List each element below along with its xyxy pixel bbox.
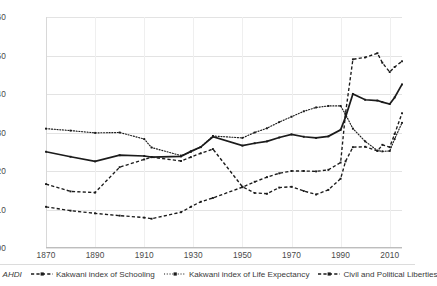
data-point-marker: [364, 99, 366, 101]
data-point-marker: [345, 160, 347, 162]
legend-swatch-icon: [31, 270, 53, 278]
data-point-marker: [303, 136, 305, 138]
data-point-marker: [291, 133, 293, 135]
data-point-marker: [241, 145, 243, 147]
data-point-marker: [151, 218, 153, 220]
data-point-marker: [303, 170, 305, 172]
data-point-marker: [352, 128, 354, 130]
x-axis-tick-label: 2010: [370, 250, 410, 260]
legend-label: Civil and Political Liberties: [343, 270, 437, 279]
data-point-marker: [381, 62, 383, 64]
y-axis-tick-label: 0.40: [0, 89, 6, 99]
data-point-marker: [394, 66, 396, 68]
data-point-marker: [254, 192, 256, 194]
data-point-marker: [401, 60, 403, 62]
x-axis-tick-label: 1990: [321, 250, 361, 260]
data-point-marker: [377, 150, 379, 152]
data-point-marker: [119, 166, 121, 168]
data-point-marker: [266, 127, 268, 129]
data-point-marker: [70, 156, 72, 158]
y-axis-tick-label: 0.20: [0, 166, 6, 176]
data-point-marker: [266, 176, 268, 178]
data-point-marker: [291, 170, 293, 172]
x-axis-tick-label: 1890: [75, 250, 115, 260]
data-point-marker: [401, 112, 403, 114]
data-point-marker: [394, 97, 396, 99]
legend-item-ahdi[interactable]: AHDI: [0, 270, 22, 279]
data-point-marker: [254, 132, 256, 134]
data-point-marker: [180, 155, 182, 157]
data-point-marker: [200, 146, 202, 148]
data-point-marker: [45, 128, 47, 130]
x-axis-tick-label: 1910: [124, 250, 164, 260]
data-point-marker: [254, 181, 256, 183]
data-point-marker: [381, 144, 383, 146]
data-point-marker: [70, 190, 72, 192]
data-point-marker: [143, 217, 145, 219]
data-point-marker: [119, 215, 121, 217]
data-point-marker: [327, 189, 329, 191]
series-line: [46, 84, 402, 161]
x-axis-tick-label: 1930: [173, 250, 213, 260]
data-point-marker: [364, 140, 366, 142]
plot-area: [46, 17, 402, 248]
data-point-marker: [377, 100, 379, 102]
data-point-marker: [340, 178, 342, 180]
data-point-marker: [381, 150, 383, 152]
data-point-marker: [389, 146, 391, 148]
x-axis-tick-label: 1870: [26, 250, 66, 260]
data-point-marker: [352, 146, 354, 148]
data-point-marker: [254, 142, 256, 144]
data-point-marker: [327, 169, 329, 171]
data-point-marker: [401, 83, 403, 85]
data-point-marker: [180, 211, 182, 213]
y-axis-tick-label: 0.00: [0, 243, 6, 253]
data-point-marker: [315, 107, 317, 109]
legend-label: Kakwani index of Schooling: [56, 270, 155, 279]
data-point-marker: [212, 197, 214, 199]
data-point-marker: [190, 156, 192, 158]
data-point-marker: [401, 122, 403, 124]
data-point-marker: [389, 71, 391, 73]
series-line: [46, 113, 402, 194]
data-point-marker: [266, 140, 268, 142]
data-point-marker: [340, 105, 342, 107]
data-point-marker: [394, 138, 396, 140]
gridline-y: [46, 248, 402, 249]
data-point-marker: [340, 162, 342, 164]
data-point-marker: [45, 206, 47, 208]
data-point-marker: [143, 155, 145, 157]
data-point-marker: [45, 151, 47, 153]
legend-item-civil-liberties[interactable]: Civil and Political Liberties: [318, 270, 437, 279]
data-point-marker: [315, 170, 317, 172]
data-point-marker: [278, 121, 280, 123]
data-point-marker: [352, 58, 354, 60]
data-point-marker: [70, 210, 72, 212]
legend-item-life-expectancy[interactable]: Kakwani index of Life Expectancy: [164, 270, 310, 279]
data-point-marker: [364, 146, 366, 148]
data-point-marker: [45, 183, 47, 185]
data-point-marker: [200, 201, 202, 203]
data-point-marker: [364, 56, 366, 58]
data-point-marker: [190, 151, 192, 153]
data-point-marker: [303, 110, 305, 112]
data-point-marker: [190, 206, 192, 208]
data-point-marker: [291, 116, 293, 118]
data-point-marker: [212, 148, 214, 150]
data-point-marker: [94, 132, 96, 134]
data-point-marker: [143, 138, 145, 140]
legend-label: AHDI: [3, 270, 22, 279]
data-point-marker: [266, 193, 268, 195]
y-axis-tick-label: 0.50: [0, 51, 6, 61]
x-axis-tick-label: 1950: [222, 250, 262, 260]
data-point-marker: [119, 132, 121, 134]
data-point-marker: [70, 130, 72, 132]
data-point-marker: [241, 186, 243, 188]
data-point-marker: [278, 172, 280, 174]
data-point-marker: [345, 112, 347, 114]
series-line: [46, 53, 402, 219]
legend-item-schooling[interactable]: Kakwani index of Schooling: [31, 270, 155, 279]
data-point-marker: [119, 154, 121, 156]
chart-legend: AHDIKakwani index of SchoolingKakwani in…: [0, 264, 415, 283]
data-point-marker: [278, 137, 280, 139]
